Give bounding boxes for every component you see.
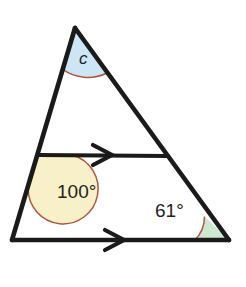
angle-label-61: 61°	[155, 200, 184, 221]
triangle-right-side	[75, 28, 229, 240]
angle-label-100: 100°	[57, 181, 96, 202]
transversal-line	[38, 155, 168, 156]
geometry-diagram: c 100° 61°	[0, 0, 246, 287]
geometry-canvas: c 100° 61°	[0, 0, 246, 287]
apex-angle-label: c	[79, 49, 88, 68]
